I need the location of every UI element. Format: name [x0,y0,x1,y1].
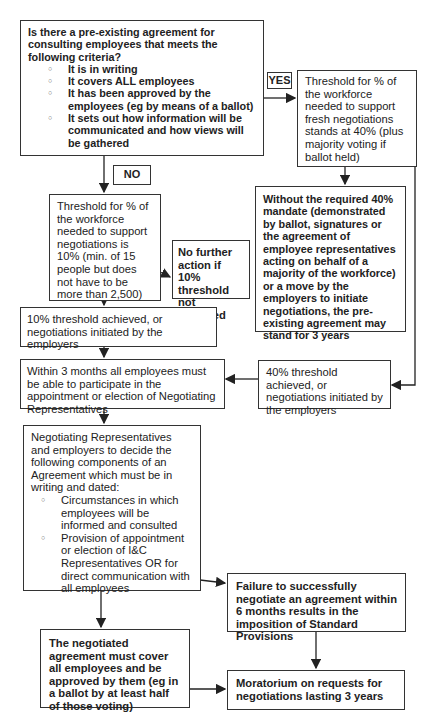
negotiated-agreement-box: The negotiated agreement must cover all … [40,629,190,708]
no-further-action-box: No further action if 10% threshold not a… [172,240,250,299]
negotiating-representatives-box: Negotiating Representatives and employer… [23,425,201,591]
failure-to-negotiate-box: Failure to successfully negotiate an agr… [227,573,406,632]
question-text: Is there a pre-existing agreement for co… [28,26,256,63]
negotiating-reps-text: Negotiating Representatives and employer… [31,431,193,494]
without-40-mandate-box: Without the required 40% mandate (demons… [255,186,406,332]
criteria-item: It is in writing [48,63,256,75]
yes-label: YES [267,72,292,89]
criteria-list: It is in writing It covers ALL employees… [28,63,256,149]
criteria-item: It has been approved by the employees (e… [48,87,256,112]
criteria-item: It covers ALL employees [48,75,256,87]
no-label: NO [113,165,151,185]
moratorium-box: Moratorium on requests for negotiations … [227,670,405,710]
threshold-10-box: Threshold for % of the workforce needed … [49,194,161,301]
components-list: Circumstances in which employees will be… [31,494,193,595]
pre-existing-agreement-question-box: Is there a pre-existing agreement for co… [20,20,264,156]
within-3-months-box: Within 3 months all employees must be ab… [20,359,225,409]
threshold-40-achieved-box: 40% threshold achieved, or negotiations … [258,360,391,409]
criteria-item: It sets out how information will be comm… [48,112,256,149]
threshold-10-achieved-box: 10% threshold achieved, or negotiations … [20,307,217,347]
threshold-40-box: Threshold for % of the workforce needed … [297,70,417,167]
component-item: Circumstances in which employees will be… [41,494,193,532]
component-item: Provision of appointment or election of … [41,532,193,595]
